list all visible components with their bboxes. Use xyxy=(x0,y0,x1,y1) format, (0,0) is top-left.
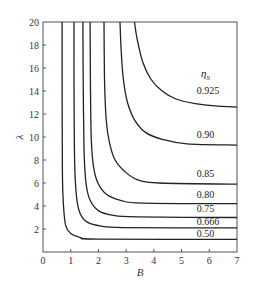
curve-label: 0.925 xyxy=(197,85,220,96)
x-tick-label: 3 xyxy=(124,255,129,266)
y-axis-label: λ xyxy=(13,134,25,140)
y-tick-label: 14 xyxy=(29,86,39,97)
x-axis-label: B xyxy=(137,266,144,278)
chart: 01234567 2468101214161820 0.9250.900.850… xyxy=(0,0,253,291)
y-tick-label: 2 xyxy=(34,224,39,235)
x-tick-label: 4 xyxy=(151,255,156,266)
curve-0.925 xyxy=(135,22,238,107)
x-tick-label: 5 xyxy=(179,255,184,266)
x-tick-label: 7 xyxy=(235,255,240,266)
y-tick-label: 12 xyxy=(29,109,39,120)
legend-title: ηS xyxy=(201,67,210,82)
curve-0.85 xyxy=(104,22,237,184)
x-tick-label: 0 xyxy=(41,255,46,266)
curve-0.80 xyxy=(90,22,237,204)
curve-label: 0.90 xyxy=(197,129,215,140)
curve-label: 0.75 xyxy=(197,203,215,214)
y-tick-label: 16 xyxy=(29,63,39,74)
x-tick-label: 2 xyxy=(96,255,101,266)
y-tick-label: 8 xyxy=(34,155,39,166)
y-tick-label: 6 xyxy=(34,178,39,189)
y-tick-label: 20 xyxy=(29,17,39,28)
x-tick-label: 1 xyxy=(68,255,73,266)
y-tick-label: 10 xyxy=(29,132,39,143)
curve-label: 0.80 xyxy=(197,189,215,200)
curve-label: 0.50 xyxy=(197,228,215,239)
curve-label: 0.666 xyxy=(197,216,220,227)
curve-labels: 0.9250.900.850.800.750.6660.50 xyxy=(197,85,220,239)
x-tick-label: 6 xyxy=(207,255,212,266)
y-tick-label: 18 xyxy=(29,40,39,51)
curve-label: 0.85 xyxy=(197,168,215,179)
y-tick-label: 4 xyxy=(34,201,39,212)
